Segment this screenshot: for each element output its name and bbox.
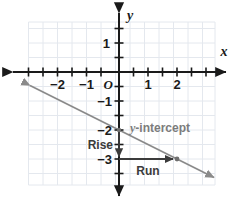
y-tick-label-neg2: −2 [97,123,112,138]
y-tick-label-1: 1 [103,36,110,51]
y-tick-label-neg1: −1 [97,94,112,109]
coordinate-plane-svg: −2 −1 1 2 1 −1 −2 −3 O x y y-intercept R… [0,0,238,204]
rise-run-endpoint [175,157,180,162]
x-tick-label-neg1: −1 [79,77,94,92]
x-axis-label: x [220,44,228,59]
y-intercept-label-text: -intercept [135,121,190,135]
run-label: Run [136,164,159,178]
y-intercept-point [117,128,121,132]
y-axis-label: y [125,8,134,23]
origin-label: O [104,77,114,92]
x-tick-label-2: 2 [173,77,180,92]
y-tick-label-neg3: −3 [97,152,112,167]
y-intercept-label: y-intercept [128,121,190,135]
rise-label: Rise [88,138,114,152]
x-tick-label-1: 1 [144,77,151,92]
x-tick-label-neg2: −2 [50,77,65,92]
graph-figure: −2 −1 1 2 1 −1 −2 −3 O x y y-intercept R… [0,0,238,204]
